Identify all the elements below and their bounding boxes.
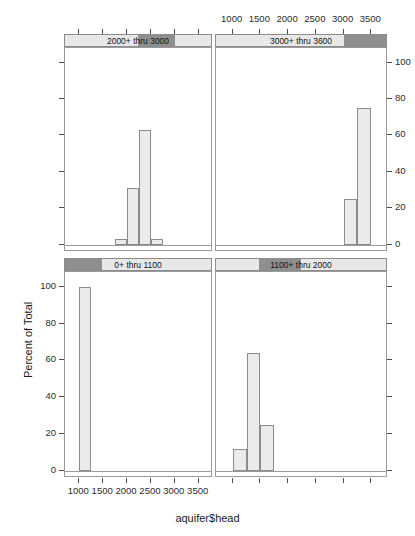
axis-tick [387, 244, 392, 245]
histogram-bar [151, 239, 163, 244]
axis-tick-label: 80 [45, 318, 56, 328]
axis-tick-label: 1000 [68, 486, 89, 496]
axis-tick [198, 478, 199, 483]
axis-tick-label: 2000 [115, 486, 136, 496]
histogram-bar [127, 188, 139, 244]
axis-tick [387, 286, 392, 287]
panel-baseline [65, 245, 211, 246]
histogram-bar [139, 130, 151, 245]
panel-baseline [216, 245, 386, 246]
strip-label: 2000+ thru 3000 [65, 35, 211, 46]
axis-tick-label: 60 [45, 355, 56, 365]
axis-tick-label: 60 [395, 130, 406, 140]
axis-tick [370, 478, 371, 483]
axis-tick-label: 3000 [163, 486, 184, 496]
axis-tick [387, 207, 392, 208]
axis-tick [150, 478, 151, 483]
chart-panel-bottom-right [215, 271, 387, 477]
axis-tick-label: 100 [395, 57, 411, 67]
axis-tick [126, 478, 127, 483]
axis-tick-label: 2500 [304, 14, 325, 24]
axis-tick [102, 478, 103, 483]
panel-plot-area [216, 48, 386, 250]
axis-tick-label: 3500 [187, 486, 208, 496]
panel-plot-area [216, 272, 386, 476]
axis-tick [387, 98, 392, 99]
axis-tick-label: 40 [45, 391, 56, 401]
chart-panel-bottom-left [64, 271, 212, 477]
axis-tick [387, 171, 392, 172]
axis-tick [387, 359, 392, 360]
axis-tick-label: 1500 [92, 486, 113, 496]
axis-tick-label: 100 [40, 281, 56, 291]
histogram-bar [260, 425, 274, 471]
chart-panel-top-left [64, 47, 212, 251]
strip-header-top-right: 3000+ thru 3600 [215, 34, 387, 47]
strip-header-bottom-right: 1100+ thru 2000 [215, 258, 387, 271]
strip-label: 0+ thru 1100 [65, 259, 211, 270]
histogram-bar [344, 199, 358, 245]
axis-tick [387, 62, 392, 63]
axis-tick-label: 0 [51, 465, 56, 475]
chart-panel-top-right [215, 47, 387, 251]
axis-tick [387, 396, 392, 397]
strip-label: 3000+ thru 3600 [216, 35, 386, 46]
axis-tick [232, 478, 233, 483]
x-axis-title: aquifer$head [0, 512, 415, 524]
axis-tick-label: 2500 [139, 486, 160, 496]
panel-plot-area [65, 272, 211, 476]
strip-header-bottom-left: 0+ thru 1100 [64, 258, 212, 271]
histogram-bar [79, 287, 91, 471]
axis-tick-label: 80 [395, 93, 406, 103]
histogram-bar [357, 108, 371, 245]
axis-tick [387, 470, 392, 471]
panel-baseline [216, 471, 386, 472]
panel-baseline [65, 471, 211, 472]
axis-tick [287, 478, 288, 483]
axis-tick-label: 20 [395, 203, 406, 213]
histogram-bar [233, 449, 247, 471]
axis-tick [78, 478, 79, 483]
y-axis-title: Percent of Total [22, 302, 34, 378]
axis-tick [174, 478, 175, 483]
histogram-bar [247, 353, 261, 471]
axis-tick [387, 323, 392, 324]
axis-tick-label: 1500 [249, 14, 270, 24]
axis-tick-label: 1000 [221, 14, 242, 24]
axis-tick [387, 433, 392, 434]
strip-header-top-left: 2000+ thru 3000 [64, 34, 212, 47]
axis-tick-label: 2000 [277, 14, 298, 24]
axis-tick-label: 40 [395, 166, 406, 176]
axis-tick-label: 3500 [360, 14, 381, 24]
axis-tick [343, 478, 344, 483]
axis-tick [387, 134, 392, 135]
axis-tick-label: 0 [395, 239, 400, 249]
panel-plot-area [65, 48, 211, 250]
axis-tick-label: 20 [45, 428, 56, 438]
axis-tick [315, 478, 316, 483]
histogram-bar [115, 239, 127, 244]
axis-tick [259, 478, 260, 483]
strip-label: 1100+ thru 2000 [216, 259, 386, 270]
axis-tick-label: 3000 [332, 14, 353, 24]
lattice-histogram-figure: Percent of Total aquifer$head 1000150020… [0, 0, 415, 536]
